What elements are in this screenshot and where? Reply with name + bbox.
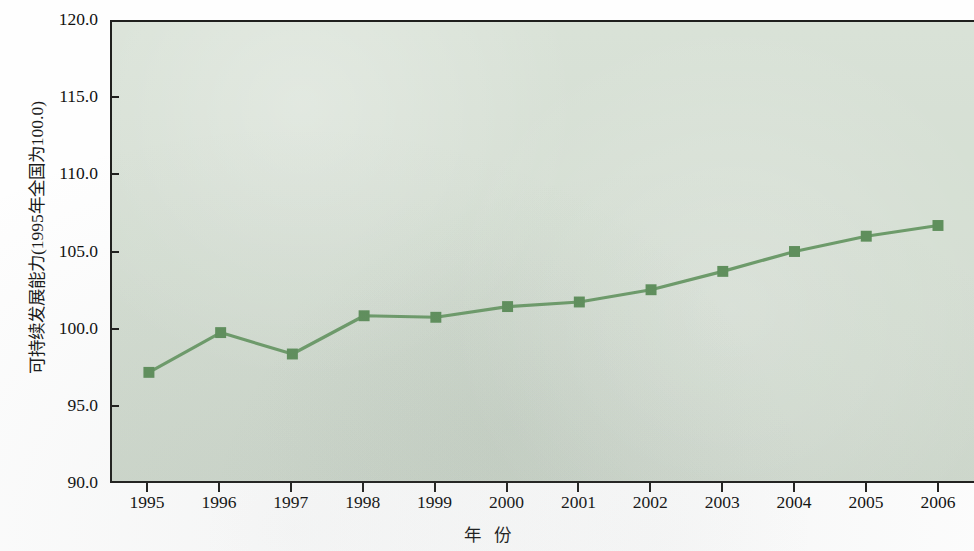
data-point-marker <box>789 246 800 257</box>
y-axis-tick-label: 110.0 <box>34 165 98 183</box>
data-point-marker <box>932 220 943 231</box>
data-point-marker <box>646 284 657 295</box>
x-axis-tick-mark <box>577 483 579 492</box>
y-axis-tick-label: 95.0 <box>34 397 98 415</box>
data-point-marker <box>430 312 441 323</box>
x-axis-tick-mark <box>218 483 220 492</box>
chart-figure: 可持续发展能力(1995年全国为100.0) 120.0115.0110.010… <box>0 0 974 551</box>
series-markers <box>143 220 943 378</box>
y-axis-tick-labels: 120.0115.0110.0105.0100.095.090.0 <box>34 0 98 551</box>
y-axis-tick-mark <box>110 173 119 175</box>
x-axis-tick-mark <box>146 483 148 492</box>
data-point-marker <box>717 266 728 277</box>
x-axis-tick-mark <box>362 483 364 492</box>
series-line <box>149 225 938 372</box>
y-axis-tick-label: 90.0 <box>34 474 98 492</box>
x-axis-tick-mark <box>290 483 292 492</box>
data-point-marker <box>143 367 154 378</box>
x-axis-tick-mark <box>721 483 723 492</box>
x-axis-tick-mark <box>506 483 508 492</box>
y-axis-tick-label: 120.0 <box>34 11 98 29</box>
plot-area <box>110 20 974 483</box>
data-point-marker <box>359 310 370 321</box>
y-axis-tick-label: 100.0 <box>34 320 98 338</box>
y-axis-tick-mark <box>110 251 119 253</box>
x-axis-tick-mark <box>865 483 867 492</box>
x-axis-title: 年份 <box>0 521 974 546</box>
x-axis-tick-mark <box>793 483 795 492</box>
x-axis-tick-mark <box>434 483 436 492</box>
data-point-marker <box>574 297 585 308</box>
x-axis-tick-label: 2006 <box>893 494 974 512</box>
data-series-layer <box>112 22 974 481</box>
data-point-marker <box>502 301 513 312</box>
data-point-marker <box>215 327 226 338</box>
y-axis-tick-mark <box>110 96 119 98</box>
x-axis-tick-mark <box>649 483 651 492</box>
data-point-marker <box>287 349 298 360</box>
y-axis-tick-label: 115.0 <box>34 88 98 106</box>
y-axis-tick-mark <box>110 328 119 330</box>
x-axis-tick-mark <box>937 483 939 492</box>
data-point-marker <box>861 231 872 242</box>
y-axis-tick-label: 105.0 <box>34 243 98 261</box>
y-axis-tick-mark <box>110 405 119 407</box>
